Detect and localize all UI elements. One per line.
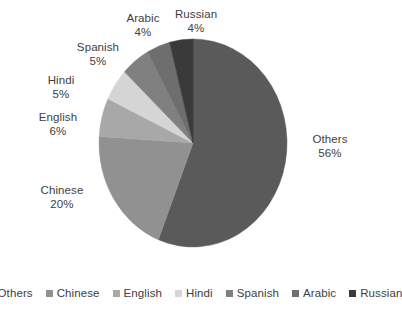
- slice-label-name: Chinese: [2, 184, 122, 198]
- slice-label-hindi: Hindi5%: [1, 74, 121, 101]
- legend-swatch-icon: [175, 290, 182, 297]
- slice-label-name: Hindi: [1, 74, 121, 88]
- slice-label-value: 56%: [270, 147, 390, 161]
- legend-swatch-icon: [292, 290, 299, 297]
- legend-swatch-icon: [226, 290, 233, 297]
- slice-label-value: 4%: [136, 22, 256, 36]
- slice-label-value: 20%: [2, 198, 122, 212]
- legend-item-hindi[interactable]: Hindi: [175, 287, 213, 300]
- legend-swatch-icon: [46, 290, 53, 297]
- legend-item-spanish[interactable]: Spanish: [226, 287, 279, 300]
- legend-label: Arabic: [303, 287, 336, 300]
- legend-item-others[interactable]: Others: [0, 287, 33, 300]
- legend-swatch-icon: [349, 290, 356, 297]
- pie-plot-area: Others56%Chinese20%English6%Hindi5%Spani…: [0, 0, 389, 272]
- slice-label-spanish: Spanish5%: [38, 41, 158, 68]
- legend-swatch-icon: [113, 290, 120, 297]
- slice-label-value: 6%: [0, 125, 118, 139]
- slice-label-russian: Russian4%: [136, 8, 256, 35]
- slice-label-chinese: Chinese20%: [2, 184, 122, 211]
- slice-label-name: English: [0, 111, 118, 125]
- slice-label-others: Others56%: [270, 133, 390, 160]
- slice-label-name: Russian: [136, 8, 256, 22]
- legend-label: Others: [0, 287, 33, 300]
- legend-label: Chinese: [57, 287, 100, 300]
- legend-item-russian[interactable]: Russian: [349, 287, 402, 300]
- slice-label-name: Spanish: [38, 41, 158, 55]
- legend-label: Hindi: [186, 287, 213, 300]
- legend-label: Spanish: [237, 287, 279, 300]
- legend-item-chinese[interactable]: Chinese: [46, 287, 100, 300]
- chart-legend: OthersChineseEnglishHindiSpanishArabicRu…: [0, 282, 389, 304]
- slice-label-name: Others: [270, 133, 390, 147]
- legend-label: Russian: [360, 287, 402, 300]
- legend-label: English: [124, 287, 162, 300]
- legend-item-english[interactable]: English: [113, 287, 162, 300]
- slice-label-value: 5%: [38, 55, 158, 69]
- slice-label-english: English6%: [0, 111, 118, 138]
- slice-label-value: 5%: [1, 88, 121, 102]
- pie-slices-group: [99, 39, 287, 247]
- legend-item-arabic[interactable]: Arabic: [292, 287, 336, 300]
